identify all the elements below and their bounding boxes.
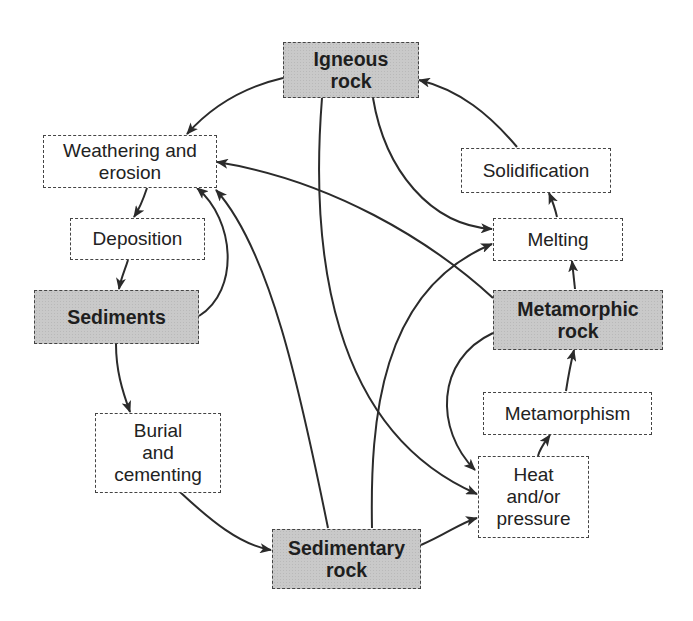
- node-weathering-and-erosion: Weathering and erosion: [43, 135, 217, 188]
- arrow-sedimentary-to-weathering: [216, 190, 328, 528]
- node-sedimentary-rock: Sedimentary rock: [272, 529, 421, 589]
- arrow-metamorphic-to-weathering: [217, 162, 493, 298]
- node-label: Heat and/or pressure: [497, 464, 571, 530]
- node-label: Melting: [527, 229, 588, 251]
- node-sediments: Sediments: [34, 290, 199, 344]
- node-label: Metamorphism: [505, 403, 631, 425]
- arrow-heat-to-metamorphism: [538, 435, 550, 456]
- node-deposition: Deposition: [70, 218, 205, 260]
- node-solidification: Solidification: [461, 148, 611, 193]
- node-label: Sediments: [67, 306, 166, 328]
- node-label: Weathering and erosion: [63, 140, 197, 184]
- node-heat-and-or-pressure: Heat and/or pressure: [478, 456, 589, 538]
- arrow-sedimentary-to-melting: [372, 244, 492, 528]
- node-label: Sedimentary rock: [288, 537, 405, 582]
- arrow-metamorphic-to-melting: [572, 261, 575, 289]
- node-igneous-rock: Igneous rock: [283, 42, 419, 98]
- arrow-sediments-to-burial: [116, 344, 130, 412]
- node-metamorphic-rock: Metamorphic rock: [493, 290, 663, 350]
- arrow-deposition-to-sediments: [119, 260, 128, 289]
- node-label: Metamorphic rock: [517, 298, 638, 343]
- node-label: Burial and cementing: [114, 420, 202, 486]
- arrow-igneous-to-weathering: [187, 78, 283, 134]
- arrow-sedimentary-to-heat: [421, 518, 477, 545]
- arrow-weathering-to-deposition: [134, 188, 147, 217]
- node-melting: Melting: [493, 218, 623, 261]
- arrow-melting-to-solidification: [549, 193, 557, 217]
- node-burial-and-cementing: Burial and cementing: [95, 413, 221, 493]
- arrow-burial-to-sedimentary: [180, 492, 271, 550]
- arrow-solidification-to-igneous: [419, 80, 517, 147]
- node-label: Deposition: [93, 228, 183, 250]
- node-label: Igneous rock: [314, 48, 389, 93]
- arrow-metamorphism-to-metamorphic: [566, 350, 574, 391]
- node-label: Solidification: [483, 160, 590, 182]
- node-metamorphism: Metamorphism: [483, 392, 652, 435]
